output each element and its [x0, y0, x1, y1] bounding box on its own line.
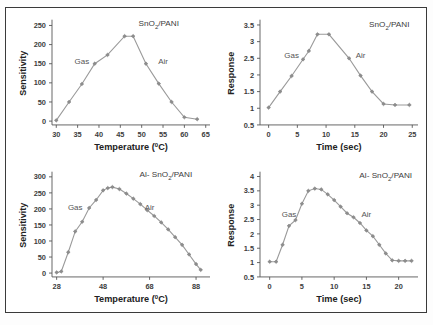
- chart-top-right: 0.511.522.533.50510152025ResponseTime (s…: [216, 8, 426, 160]
- svg-text:150: 150: [34, 221, 46, 230]
- figure-border: 0501001502002503035404550556065Sensitivi…: [5, 7, 427, 313]
- svg-text:0: 0: [268, 282, 272, 291]
- svg-text:10: 10: [322, 130, 330, 139]
- svg-text:Air: Air: [158, 57, 168, 66]
- svg-text:Gas: Gas: [282, 210, 297, 219]
- svg-text:1.5: 1.5: [244, 244, 254, 253]
- svg-text:300: 300: [34, 173, 46, 182]
- svg-text:0: 0: [42, 269, 46, 278]
- svg-text:Sensitivity: Sensitivity: [18, 51, 28, 96]
- svg-text:88: 88: [192, 282, 200, 291]
- svg-text:15: 15: [362, 282, 370, 291]
- svg-text:3: 3: [250, 201, 254, 210]
- svg-text:0: 0: [42, 117, 46, 126]
- svg-text:55: 55: [159, 130, 167, 139]
- svg-text:Al- SnO2/PANI: Al- SnO2/PANI: [139, 170, 192, 181]
- panel-bottom-left: 05010015020025030028486888SensitivityTem…: [6, 160, 216, 312]
- svg-text:0: 0: [267, 130, 271, 139]
- svg-text:50: 50: [38, 98, 46, 107]
- panel-bottom-right: 0.511.522.533.5405101520ResponseTime (se…: [216, 160, 426, 312]
- svg-text:SnO2/PANI: SnO2/PANI: [369, 20, 409, 31]
- svg-text:Sensitivity: Sensitivity: [18, 203, 28, 248]
- svg-text:50: 50: [38, 253, 46, 262]
- svg-text:Response: Response: [226, 204, 236, 247]
- svg-text:28: 28: [53, 282, 61, 291]
- svg-text:Gas: Gas: [284, 51, 299, 60]
- svg-text:30: 30: [52, 130, 60, 139]
- svg-text:Time (sec): Time (sec): [316, 294, 361, 304]
- svg-text:3.5: 3.5: [244, 21, 254, 30]
- svg-text:3.5: 3.5: [244, 187, 254, 196]
- svg-text:10: 10: [330, 282, 338, 291]
- svg-text:Temperature (0C): Temperature (0C): [94, 294, 168, 304]
- svg-text:2.5: 2.5: [244, 54, 254, 63]
- svg-text:Time (sec): Time (sec): [316, 142, 361, 152]
- panel-top-left: 0501001502002503035404550556065Sensitivi…: [6, 8, 216, 160]
- svg-text:68: 68: [145, 282, 153, 291]
- svg-text:Temperature (0C): Temperature (0C): [94, 142, 168, 152]
- chart-bottom-left: 05010015020025030028486888SensitivityTem…: [6, 160, 216, 312]
- svg-text:5: 5: [300, 282, 304, 291]
- svg-text:45: 45: [116, 130, 124, 139]
- svg-text:0.5: 0.5: [244, 121, 254, 130]
- svg-text:2: 2: [250, 230, 254, 239]
- svg-text:250: 250: [34, 189, 46, 198]
- svg-text:0.5: 0.5: [244, 273, 254, 282]
- svg-text:60: 60: [180, 130, 188, 139]
- svg-text:25: 25: [408, 130, 416, 139]
- panel-grid: 0501001502002503035404550556065Sensitivi…: [6, 8, 426, 312]
- svg-text:20: 20: [379, 130, 387, 139]
- svg-text:Gas: Gas: [68, 203, 83, 212]
- svg-text:15: 15: [351, 130, 359, 139]
- svg-text:1: 1: [250, 104, 254, 113]
- svg-text:250: 250: [34, 21, 46, 30]
- svg-text:5: 5: [295, 130, 299, 139]
- svg-text:50: 50: [138, 130, 146, 139]
- svg-text:1: 1: [250, 258, 254, 267]
- svg-text:100: 100: [34, 237, 46, 246]
- svg-text:3: 3: [250, 37, 254, 46]
- chart-bottom-right: 0.511.522.533.5405101520ResponseTime (se…: [216, 160, 426, 312]
- svg-text:2: 2: [250, 71, 254, 80]
- svg-text:Al- SnO2/PANI: Al- SnO2/PANI: [359, 171, 412, 182]
- svg-text:150: 150: [34, 59, 46, 68]
- svg-text:2.5: 2.5: [244, 215, 254, 224]
- svg-text:1.5: 1.5: [244, 87, 254, 96]
- panel-top-right: 0.511.522.533.50510152025ResponseTime (s…: [216, 8, 426, 160]
- svg-text:65: 65: [202, 130, 210, 139]
- figure-container: 0501001502002503035404550556065Sensitivi…: [0, 0, 433, 325]
- svg-text:20: 20: [395, 282, 403, 291]
- svg-text:Air: Air: [362, 210, 372, 219]
- svg-text:4: 4: [250, 172, 255, 181]
- svg-text:Air: Air: [145, 203, 155, 212]
- svg-text:Response: Response: [226, 52, 236, 95]
- svg-text:35: 35: [74, 130, 82, 139]
- svg-text:SnO2/PANI: SnO2/PANI: [139, 19, 179, 30]
- svg-text:Air: Air: [356, 51, 366, 60]
- svg-text:Gas: Gas: [75, 57, 90, 66]
- svg-text:200: 200: [34, 40, 46, 49]
- svg-text:40: 40: [95, 130, 103, 139]
- svg-text:48: 48: [99, 282, 107, 291]
- svg-text:200: 200: [34, 205, 46, 214]
- svg-text:100: 100: [34, 79, 46, 88]
- chart-top-left: 0501001502002503035404550556065Sensitivi…: [6, 8, 216, 160]
